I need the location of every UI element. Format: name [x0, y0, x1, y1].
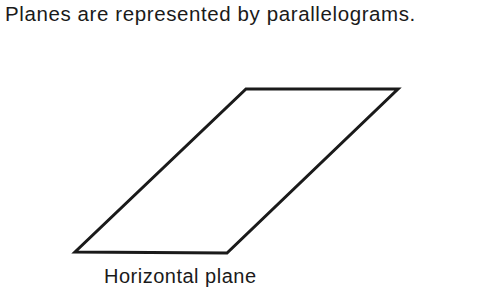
horizontal-plane-parallelogram — [75, 89, 398, 253]
figure-caption: Horizontal plane — [104, 265, 257, 287]
parallelogram-figure — [0, 0, 496, 292]
